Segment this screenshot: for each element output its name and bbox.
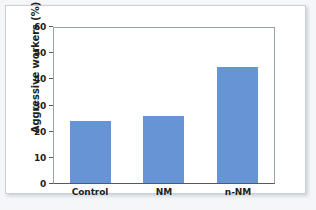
figure-root: Aggressive workers (%) 60 50 40 30 20: [0, 0, 316, 210]
y-tick-label: 10: [34, 151, 46, 165]
bar-slot-control: [54, 28, 127, 183]
bars-layer: [54, 28, 274, 183]
y-tick-label: 20: [34, 125, 46, 139]
x-tick-label-control: Control: [53, 187, 127, 197]
plot-area: [53, 27, 275, 184]
y-tick-label: 40: [34, 72, 46, 86]
y-tick-label: 60: [34, 20, 46, 34]
bar-slot-n-nm: [201, 28, 274, 183]
bar-nm[interactable]: [143, 116, 184, 183]
figure-frame: Aggressive workers (%) 60 50 40 30 20: [5, 5, 306, 194]
x-tick-label-n-nm: n-NM: [201, 187, 275, 197]
bar-n-nm[interactable]: [217, 67, 258, 183]
y-axis: 60 50 40 30 20 10: [6, 27, 53, 184]
y-tick-label: 0: [40, 177, 46, 191]
y-tick-label: 30: [34, 99, 46, 113]
y-tick-label: 50: [34, 46, 46, 60]
bar-slot-nm: [127, 28, 200, 183]
x-tick-label-nm: NM: [127, 187, 201, 197]
bar-control[interactable]: [70, 121, 111, 183]
x-axis: Control NM n-NM: [53, 187, 275, 197]
